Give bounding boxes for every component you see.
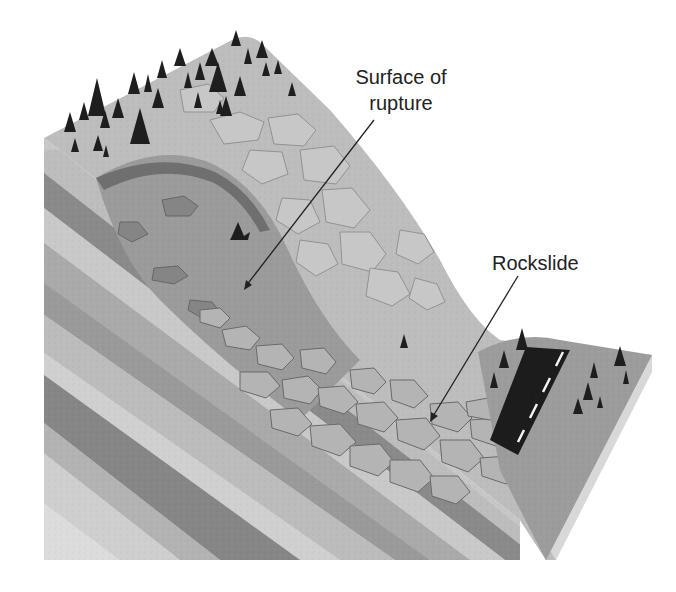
label-surface-of-rupture: Surface of rupture bbox=[346, 64, 456, 116]
label-line: Rockslide bbox=[492, 250, 579, 276]
label-line: Surface of bbox=[346, 64, 456, 90]
block-diagram-illustration bbox=[0, 0, 676, 592]
label-line: rupture bbox=[346, 90, 456, 116]
label-rockslide: Rockslide bbox=[492, 250, 579, 276]
rockslide-diagram: Surface of rupture Rockslide bbox=[0, 0, 676, 592]
